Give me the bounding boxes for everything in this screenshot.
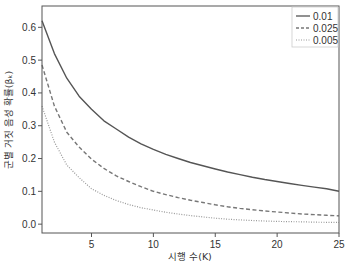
x-axis-label: 시행 수(K): [168, 251, 212, 262]
x-tick-label: 5: [89, 239, 95, 250]
y-tick-label: 0.5: [22, 55, 36, 66]
x-axis-ticks: 510152025: [89, 233, 345, 250]
x-tick-label: 25: [333, 239, 345, 250]
y-tick-label: 0.1: [22, 186, 36, 197]
y-tick-label: 0.0: [22, 219, 36, 230]
y-tick-label: 0.2: [22, 153, 36, 164]
y-tick-label: 0.3: [22, 120, 36, 131]
x-tick-label: 15: [210, 239, 222, 250]
y-axis-ticks: 0.00.10.20.30.40.50.6: [22, 22, 42, 230]
y-tick-label: 0.4: [22, 87, 36, 98]
x-tick-label: 20: [272, 239, 284, 250]
line-chart: 510152025 0.00.10.20.30.40.50.6 시행 수(K) …: [0, 0, 347, 269]
legend: 0.01 0.025 0.005: [292, 7, 338, 47]
series-line-0.025: [42, 65, 339, 216]
y-tick-label: 0.6: [22, 22, 36, 33]
legend-label-2: 0.005: [313, 35, 338, 46]
series-line-0.005: [42, 106, 339, 222]
legend-label-1: 0.025: [313, 23, 338, 34]
series-layer: [42, 21, 339, 223]
y-axis-label: 군별 거짓 음성 확률(βₖ): [3, 71, 14, 170]
x-tick-label: 10: [148, 239, 160, 250]
legend-label-0: 0.01: [313, 11, 333, 22]
